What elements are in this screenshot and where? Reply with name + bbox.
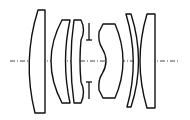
lens-diagram xyxy=(0,0,190,120)
lens-element-1 xyxy=(29,10,45,113)
lens-element-3 xyxy=(71,20,84,103)
lens-element-6 xyxy=(140,14,155,108)
lens-element-2 xyxy=(51,20,70,103)
lens-element-5 xyxy=(126,14,139,107)
lens-elements xyxy=(29,10,155,113)
